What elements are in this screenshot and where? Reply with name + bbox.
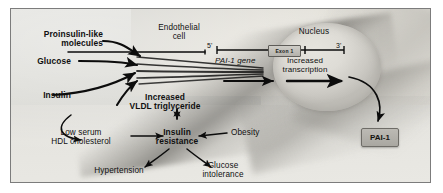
label-nucleus: Nucleus <box>283 27 345 36</box>
arrow-proinsulin-to-cell <box>103 41 140 56</box>
label-increased-transcription: Increased transcription <box>269 57 341 75</box>
label-obesity: Obesity <box>231 128 259 137</box>
arrow-obesity-to-insulin-resistance <box>199 133 227 136</box>
figure-canvas: Exon 1 Proinsulin-like molecules Glucose… <box>0 0 443 193</box>
label-pai1-gene: PAI-1 gene <box>215 57 255 66</box>
label-hypertension: Hypertension <box>83 166 155 175</box>
label-glucose-intolerance: Glucose intolerance <box>191 161 255 179</box>
label-five-prime: 5' <box>207 42 212 50</box>
arrow-insulin-resistance-to-hypertension <box>145 149 169 167</box>
label-increased-vldl-triglyceride: Increased VLDL triglyceride <box>115 93 215 112</box>
label-insulin-resistance: Insulin resistance <box>153 128 201 147</box>
arrow-glucose-to-cell <box>79 61 137 65</box>
label-endothelial-cell: Endothelial cell <box>149 23 209 41</box>
arrow-secretion-to-pai1 <box>349 77 380 121</box>
signal-streak-3 <box>137 71 263 72</box>
pai1-product-box: PAI-1 <box>361 128 399 147</box>
label-proinsulin-like-molecules: Proinsulin-like molecules <box>19 30 103 49</box>
label-glucose: Glucose <box>19 57 71 66</box>
label-low-serum-hdl-cholesterol: Low serum HDL cholesterol <box>33 128 129 146</box>
figure-frame: Exon 1 Proinsulin-like molecules Glucose… <box>10 8 431 183</box>
label-three-prime: 3' <box>336 42 341 50</box>
label-insulin: Insulin <box>35 91 79 100</box>
